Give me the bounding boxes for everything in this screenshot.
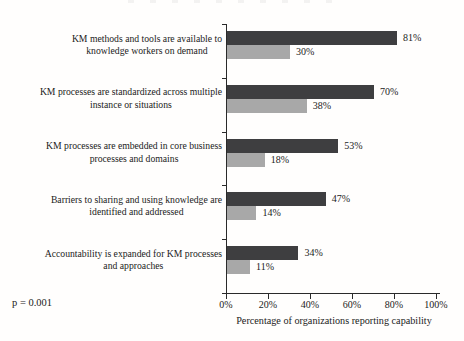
category-label: KM processes are embedded in core busine… — [46, 140, 222, 165]
bar-light — [227, 260, 250, 274]
bar-row-label-wrap: Barriers to sharing and using knowledge … — [0, 185, 222, 227]
bar-value-label: 30% — [296, 45, 314, 59]
bar-value-label: 11% — [256, 260, 274, 274]
bar-light — [227, 45, 290, 59]
bar-row-label-wrap: KM methods and tools are available to kn… — [0, 24, 222, 66]
x-axis-tick-label: 0% — [204, 299, 248, 310]
bar-value-label: 34% — [304, 246, 322, 260]
category-label: Barriers to sharing and using knowledge … — [51, 194, 222, 219]
bar-row-label-wrap: Accountability is expanded for KM proces… — [0, 239, 222, 281]
bar-dark — [227, 31, 397, 45]
bar-value-label: 53% — [344, 139, 362, 153]
bar-value-label: 14% — [262, 206, 280, 220]
x-axis-line — [226, 293, 440, 294]
bar-dark — [227, 85, 374, 99]
bar-value-label: 18% — [271, 153, 289, 167]
bar-dark — [227, 192, 326, 206]
bar-value-label: 47% — [332, 192, 350, 206]
x-axis-tick-label: 100% — [414, 299, 458, 310]
bar-row-label-wrap: KM processes are embedded in core busine… — [0, 132, 222, 174]
y-axis-line — [226, 24, 227, 295]
x-axis-tick-label: 40% — [288, 299, 332, 310]
x-axis-title: Percentage of organizations reporting ca… — [211, 315, 457, 327]
p-value-annotation: p = 0.001 — [12, 297, 52, 309]
x-axis-tick-label: 20% — [246, 299, 290, 310]
km-capability-bar-chart-figure: KM methods and tools are available to kn… — [0, 0, 464, 341]
bar-dark — [227, 139, 338, 153]
bar-value-label: 81% — [403, 31, 421, 45]
category-label: KM processes are standardized across mul… — [40, 86, 222, 111]
bar-value-label: 70% — [380, 85, 398, 99]
bar-light — [227, 206, 256, 220]
cropped-text-artifact — [128, 0, 338, 3]
bar-light — [227, 153, 265, 167]
bar-dark — [227, 246, 298, 260]
x-axis-tick-label: 60% — [330, 299, 374, 310]
bar-row-label-wrap: KM processes are standardized across mul… — [0, 78, 222, 120]
bar-light — [227, 99, 307, 113]
category-label: KM methods and tools are available to kn… — [72, 33, 222, 58]
bar-value-label: 38% — [313, 99, 331, 113]
x-axis-tick-label: 80% — [372, 299, 416, 310]
category-label: Accountability is expanded for KM proces… — [45, 248, 222, 273]
